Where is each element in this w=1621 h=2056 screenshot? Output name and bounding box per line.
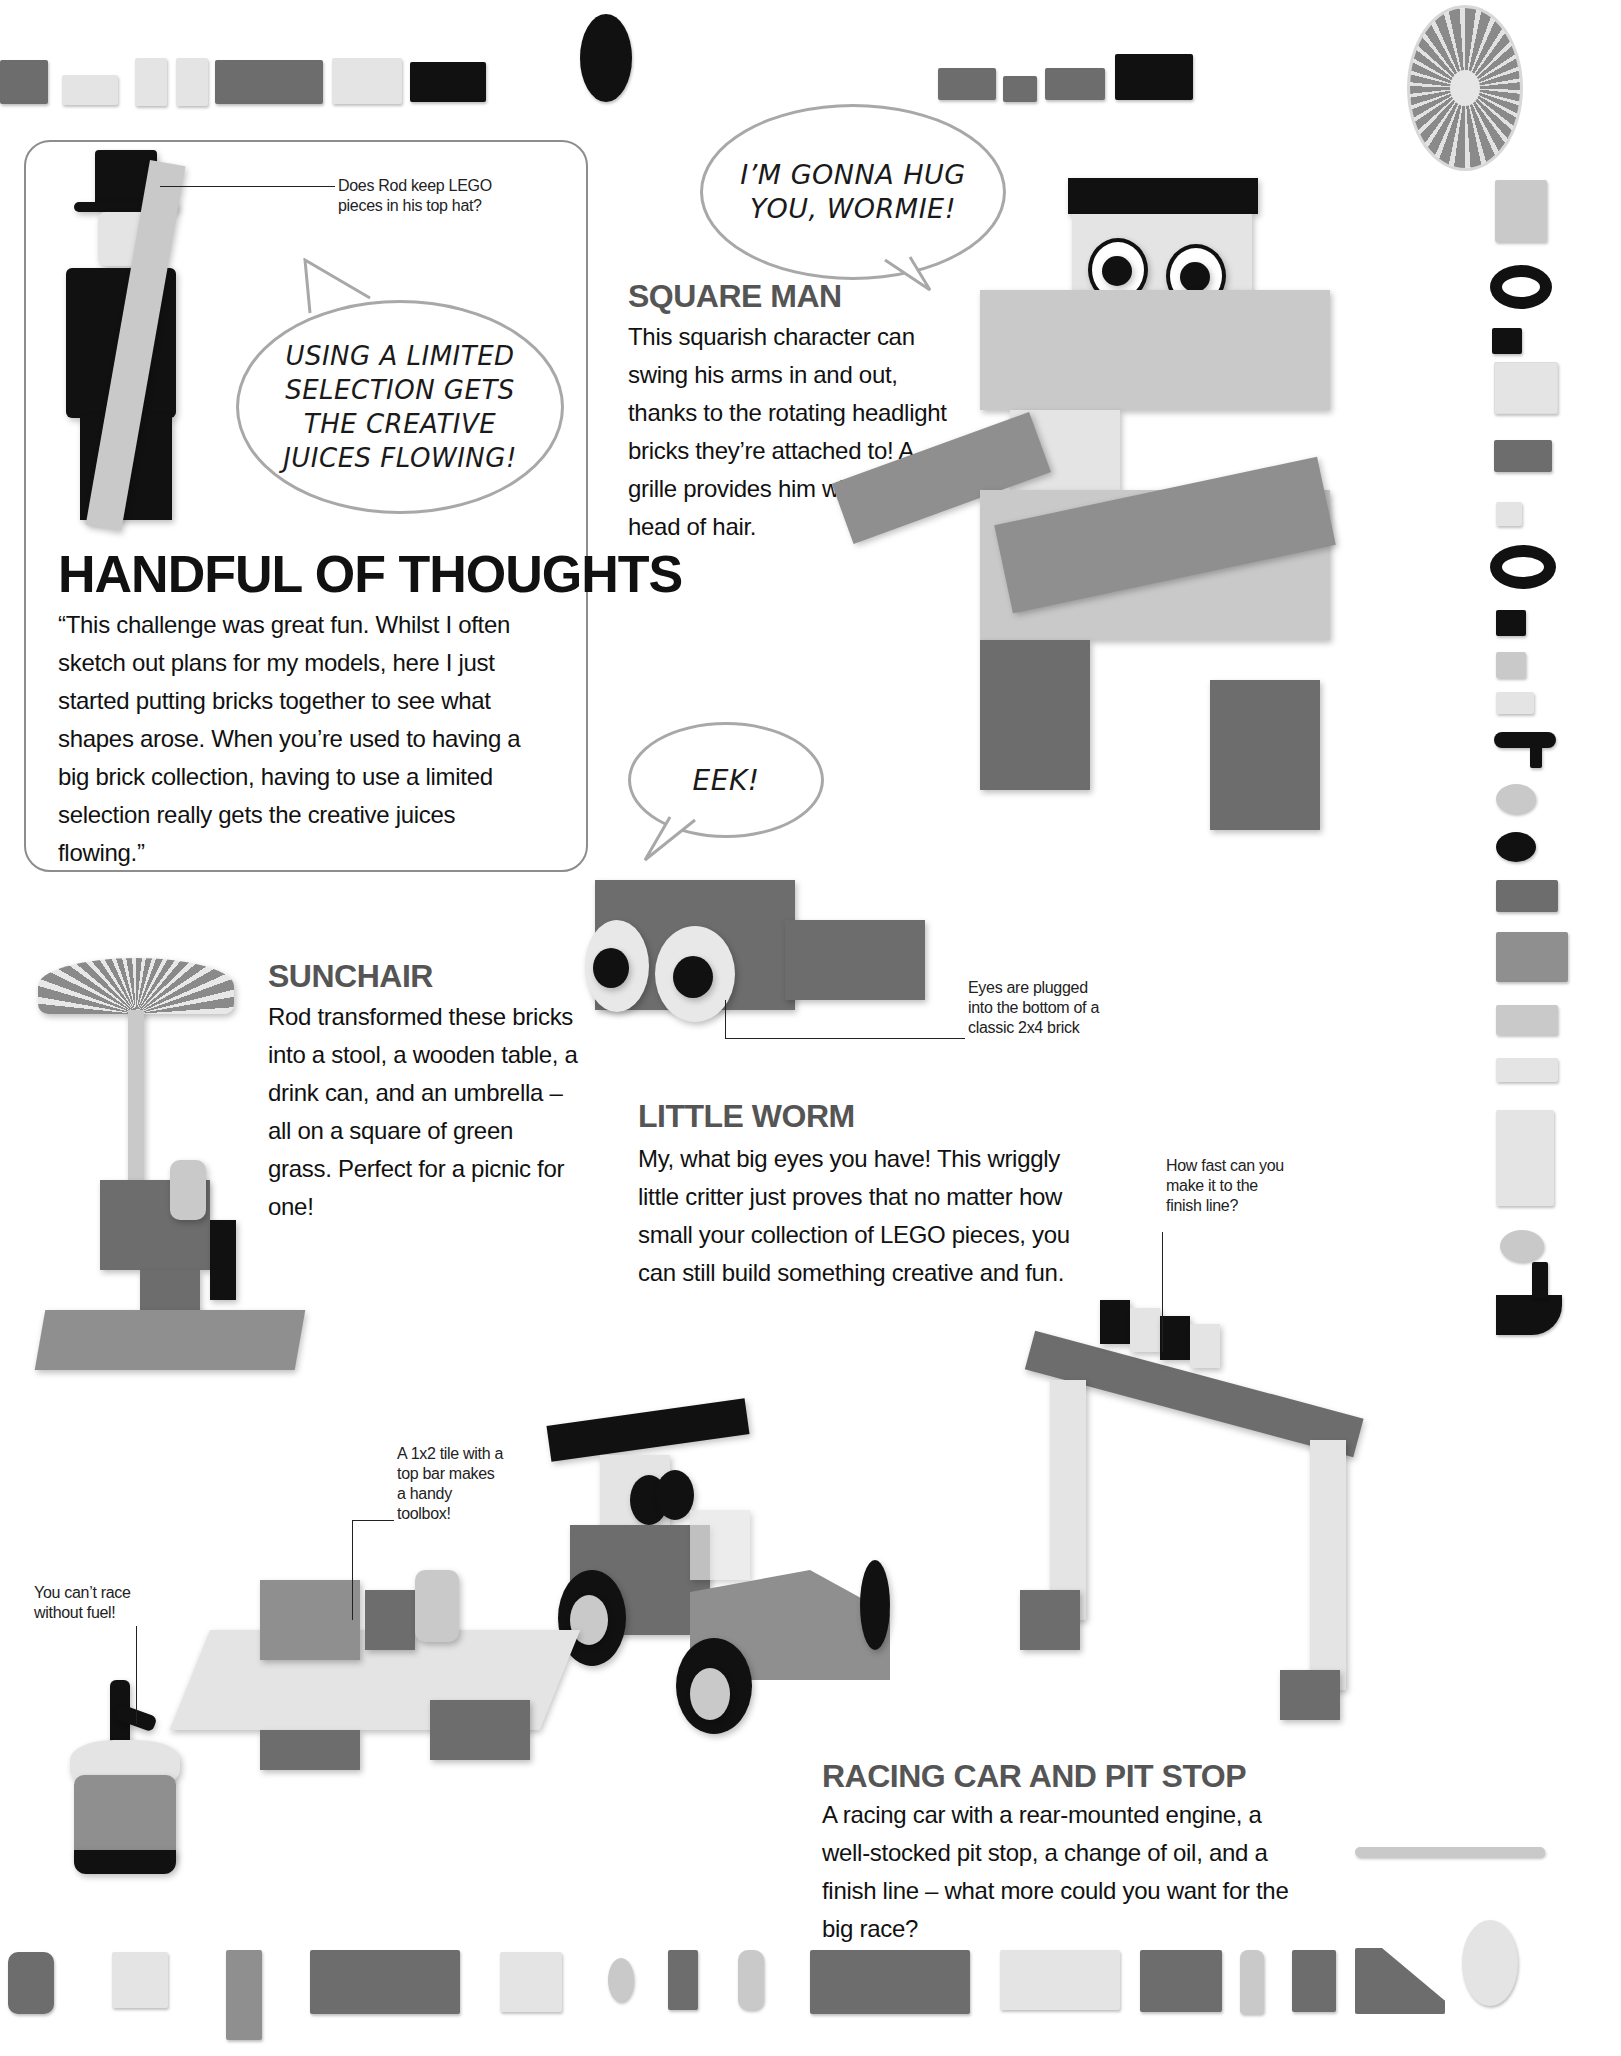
fuel-callout-leader — [136, 1626, 137, 1724]
clip-brick-icon — [1492, 328, 1522, 354]
table-leg-right — [430, 1700, 530, 1760]
right-piece-strip — [1480, 180, 1560, 1920]
finish-line-model — [1020, 1290, 1440, 1720]
little-worm-title: LITTLE WORM — [638, 1098, 855, 1135]
eye-brick-icon — [1496, 1005, 1558, 1035]
umbrella-canopy — [38, 958, 234, 1014]
toolbox-callout-leader-v — [352, 1520, 353, 1620]
speech-bubble-tail — [300, 258, 380, 318]
fuel-callout: You can’t race without fuel! — [34, 1583, 144, 1623]
slope-small-icon — [1496, 692, 1534, 714]
brick-2x4-icon — [810, 1950, 970, 2014]
finish-callout-leader — [1162, 1232, 1163, 1352]
spoiler-grille — [546, 1398, 749, 1461]
eyes-callout-leader-h — [725, 1038, 965, 1039]
left-post — [1050, 1380, 1086, 1620]
left-foot — [1020, 1590, 1080, 1650]
hat-callout-leader — [160, 186, 335, 187]
round-cone-icon — [738, 1950, 764, 2010]
minifigure-illustration — [40, 150, 240, 530]
checker-white-1 — [1130, 1308, 1160, 1352]
headlight-1x2-icon — [1494, 440, 1552, 472]
slope-brick-icon — [1355, 1948, 1445, 2014]
wheel-rim-icon — [1496, 784, 1536, 814]
headlight-1x2-icon — [1496, 880, 1558, 912]
brick-1x2-icon — [1045, 68, 1105, 100]
little-worm-description: My, what big eyes you have! This wriggly… — [638, 1140, 1078, 1292]
right-foot — [1280, 1670, 1340, 1720]
finish-callout: How fast can you make it to the finish l… — [1166, 1156, 1286, 1216]
right-post — [1310, 1440, 1346, 1690]
brick-2x4-icon — [310, 1950, 460, 2014]
worm-right-pupil — [673, 956, 713, 998]
grille-slope-icon — [176, 58, 208, 106]
tire-icon — [1490, 545, 1556, 589]
bracket-upright — [1532, 1262, 1548, 1298]
eye-brick-white-icon — [1496, 1058, 1558, 1082]
racing-car-model — [540, 1400, 980, 1730]
radar-dish-center — [1450, 70, 1480, 106]
round-dish-icon — [1462, 1920, 1518, 2006]
racing-description: A racing car with a rear-mounted engine,… — [822, 1796, 1292, 1948]
eyes-callout: Eyes are plugged into the bottom of a cl… — [968, 978, 1108, 1038]
speech-bubble-limited-selection: USING A LIMITED SELECTION GETS THE CREAT… — [236, 300, 564, 514]
right-leg — [1210, 680, 1320, 830]
toolbox — [260, 1580, 360, 1660]
right-wheel — [860, 1560, 890, 1650]
technic-pin-brick-icon — [1115, 54, 1193, 100]
grille-slope-2x2-icon — [332, 58, 402, 104]
drink-can — [170, 1160, 206, 1220]
windscreen — [690, 1510, 750, 1580]
hat-callout: Does Rod keep LEGO pieces in his top hat… — [338, 176, 498, 216]
fuel-pump-model — [70, 1680, 190, 1880]
round-plate-icon — [580, 14, 632, 102]
toolbox-callout: A 1x2 tile with a top bar makes a handy … — [397, 1444, 507, 1524]
bottom-piece-strip — [0, 1930, 1621, 2056]
grille-slope-icon — [135, 58, 167, 106]
sunchair-title: SUNCHAIR — [268, 958, 433, 995]
oil-can — [365, 1590, 415, 1650]
brick-2x3-icon — [1000, 1950, 1120, 2010]
exhaust-2 — [656, 1470, 694, 1520]
checker-black-1 — [1100, 1300, 1130, 1344]
round-tile-icon — [1496, 832, 1536, 862]
t-bar-hose-icon — [1494, 732, 1556, 748]
round-brick-icon — [8, 1952, 54, 2014]
brick-1x1-icon — [1003, 76, 1037, 102]
t-bar-stem — [1530, 746, 1542, 768]
fuel-pump-base — [74, 1850, 176, 1874]
headlight-1x1-icon — [1496, 610, 1526, 636]
slope-large-icon — [1496, 932, 1568, 982]
cone-piece — [415, 1570, 459, 1642]
square-man-model — [800, 160, 1420, 940]
worm-left-pupil — [593, 948, 629, 988]
bubble-line: USING A LIMITED — [283, 339, 517, 373]
racing-title: RACING CAR AND PIT STOP — [822, 1758, 1246, 1795]
front-rim — [690, 1668, 730, 1720]
tire-icon — [1490, 265, 1552, 309]
bubble-line: THE CREATIVE — [283, 407, 517, 441]
handful-of-thoughts-quote: “This challenge was great fun. Whilst I … — [58, 606, 548, 872]
right-pupil — [1180, 262, 1210, 292]
slope-brick-icon — [1495, 180, 1547, 242]
window-frame-icon — [1494, 362, 1558, 414]
eek-text: EEK! — [693, 764, 760, 797]
brick-1x2-icon — [938, 68, 996, 100]
side-stud-brick-icon — [1496, 1110, 1554, 1206]
brick-2x2-icon — [1140, 1950, 1222, 2012]
chair-back — [210, 1220, 236, 1300]
bracket-curve-icon — [1496, 1295, 1562, 1335]
pit-stop-table-model — [190, 1560, 570, 1760]
checker-black-2 — [1160, 1316, 1190, 1360]
brick-1x1-icon — [668, 1950, 698, 2010]
table-leg-left — [260, 1730, 360, 1770]
headlight-1x1-icon — [1496, 652, 1526, 678]
little-worm-model — [585, 870, 925, 1030]
brick-1x1-icon — [1292, 1950, 1336, 2012]
left-pupil — [1102, 256, 1132, 286]
bubble-line: SELECTION GETS — [283, 373, 517, 407]
checker-white-2 — [1190, 1324, 1220, 1368]
shoulder-brick — [980, 290, 1330, 410]
wheel-rim-small-icon — [1500, 1230, 1544, 1262]
handful-of-thoughts-title: HANDFUL OF THOUGHTS — [58, 548, 682, 600]
